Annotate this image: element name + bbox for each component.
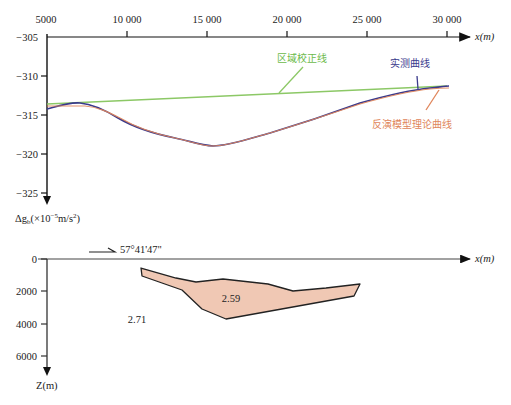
top-y-tick-305: −305 [16,32,38,43]
bottom-z-tick-6000: 6000 [16,351,37,362]
top-y-axis-arrow-icon [43,196,51,205]
top-y-tick-325: −325 [16,188,38,199]
regional-label: 区域校正线 [277,52,327,64]
strike-arrow-icon [89,248,115,252]
bottom-section: x(m) Z(m) 0 2000 4000 6000 57°41'47" 2.5… [16,244,495,392]
bottom-z-ticks [41,259,47,356]
top-x-tick-20000: 20 000 [273,14,302,25]
measured-label: 实测曲线 [390,57,430,69]
top-chart: 5000 10 000 15 000 20 000 25 000 30 000 … [15,14,495,226]
top-y-tick-315: −315 [16,110,38,121]
bottom-x-axis-label: x(m) [474,253,495,265]
density-body [141,268,360,319]
top-y-tick-320: −320 [16,149,38,160]
top-x-tick-15000: 15 000 [193,14,222,25]
bottom-z-axis-label: Z(m) [36,380,58,392]
top-x-tick-5000: 5000 [36,14,57,25]
bottom-z-tick-4000: 4000 [16,319,37,330]
regional-correction-line [47,86,447,104]
top-x-axis-label: x(m) [474,31,495,43]
model-label: 反演模型理论曲线 [372,118,452,130]
top-y-tick-310: −310 [16,71,38,82]
top-x-tick-10000: 10 000 [113,14,142,25]
top-x-ticks [127,31,447,37]
gravity-profile-figure: 5000 10 000 15 000 20 000 25 000 30 000 … [0,0,511,405]
bottom-z-tick-0: 0 [32,254,37,265]
model-curve [47,88,449,146]
top-y-ticks [41,76,47,193]
top-x-tick-30000: 30 000 [433,14,462,25]
model-leader-line [426,90,439,110]
top-y-axis-label: Δgb(×10−5m/s2) [15,212,81,226]
body-density-label: 2.59 [222,293,240,304]
bottom-z-tick-2000: 2000 [16,286,37,297]
background-density-label: 2.71 [128,314,146,325]
strike-angle-label: 57°41'47" [120,244,162,255]
top-x-tick-25000: 25 000 [353,14,382,25]
regional-leader-line [279,67,303,93]
bottom-z-axis-arrow-icon [43,367,51,376]
